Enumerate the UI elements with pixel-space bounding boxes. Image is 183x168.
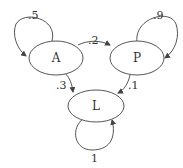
- node-a-label: A: [51, 51, 61, 65]
- node-l-label: L: [92, 99, 100, 113]
- edge-a-to-p-label: .2: [88, 34, 99, 47]
- edge-a-self-label: .5: [28, 9, 39, 22]
- edge-l-self: [76, 118, 114, 150]
- edge-a-to-l-label: .3: [56, 79, 67, 92]
- node-p-label: P: [133, 51, 141, 65]
- edge-p-self-label: .9: [153, 9, 164, 22]
- edge-p-to-l-label: .1: [128, 79, 139, 92]
- edge-l-self-label: 1: [91, 152, 98, 165]
- markov-diagram: A P L .5 .2 .3 .9 .1 1: [0, 0, 183, 168]
